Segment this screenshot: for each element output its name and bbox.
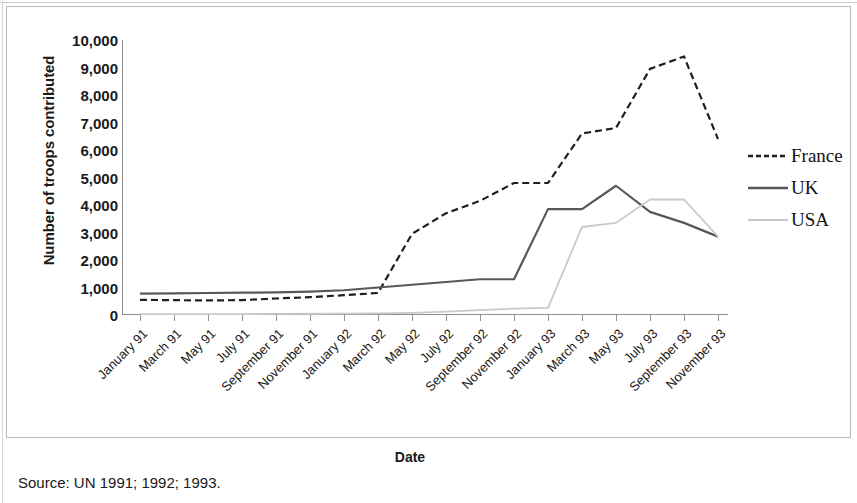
x-axis-tick-mark (718, 315, 719, 321)
y-axis-tick-label: 5,000 (46, 170, 118, 185)
x-axis-tick-marks (122, 315, 728, 322)
x-axis-tick-mark (208, 315, 209, 321)
y-axis-tick-label: 0 (46, 308, 118, 323)
x-axis-tick-mark (548, 315, 549, 321)
y-axis-tick-label: 10,000 (46, 33, 118, 48)
x-axis-tick-mark (140, 315, 141, 321)
y-axis-tick-label: 6,000 (46, 143, 118, 158)
y-axis-tick-label: 3,000 (46, 225, 118, 240)
legend-item-usa[interactable]: USA (748, 204, 853, 236)
legend-label: France (788, 145, 843, 167)
page-rule-top (0, 2, 857, 3)
data-lines (122, 40, 728, 315)
legend-swatch-france (748, 150, 788, 162)
x-axis-tick-mark (378, 315, 379, 321)
x-axis-tick-mark (412, 315, 413, 321)
chart-legend: FranceUKUSA (748, 140, 853, 236)
y-axis-tick-label: 9,000 (46, 60, 118, 75)
plot-area (122, 40, 728, 315)
y-axis-tick-label: 8,000 (46, 88, 118, 103)
source-note: Source: UN 1991; 1992; 1993. (18, 474, 221, 491)
y-axis-tick-labels: 10,0009,0008,0007,0006,0005,0004,0003,00… (46, 30, 118, 326)
x-axis-tick-mark (344, 315, 345, 321)
x-axis-tick-labels: January 91March 91May 91July 91September… (0, 322, 857, 432)
legend-label: UK (788, 177, 818, 199)
x-axis-tick-mark (276, 315, 277, 321)
x-axis-tick-mark (684, 315, 685, 321)
series-line-france (140, 57, 718, 301)
legend-item-france[interactable]: France (748, 140, 853, 172)
legend-swatch-usa (748, 214, 788, 226)
series-line-usa (140, 200, 718, 315)
x-axis-tick-mark (480, 315, 481, 321)
x-axis-tick-mark (616, 315, 617, 321)
x-axis-tick-mark (242, 315, 243, 321)
x-axis-tick-mark (582, 315, 583, 321)
legend-label: USA (788, 209, 829, 231)
x-axis-tick-mark (446, 315, 447, 321)
y-axis-tick-label: 2,000 (46, 253, 118, 268)
y-axis-tick-label: 4,000 (46, 198, 118, 213)
legend-swatch-uk (748, 182, 788, 194)
x-axis-tick-mark (650, 315, 651, 321)
x-axis-title: Date (330, 449, 490, 465)
x-axis-tick-mark (174, 315, 175, 321)
x-axis-tick-mark (310, 315, 311, 321)
series-line-uk (140, 186, 718, 294)
x-axis-tick-mark (514, 315, 515, 321)
legend-item-uk[interactable]: UK (748, 172, 853, 204)
y-axis-tick-label: 7,000 (46, 115, 118, 130)
chart-figure: Number of troops contributed 10,0009,000… (0, 0, 857, 503)
y-axis-tick-label: 1,000 (46, 280, 118, 295)
